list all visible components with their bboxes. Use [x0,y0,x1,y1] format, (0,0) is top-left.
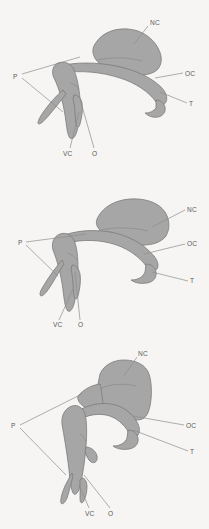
tooth-process-a [145,100,165,117]
label-oc-c: OC [186,422,196,429]
ventral-cartilage-b [40,260,64,296]
label-o-a: O [92,150,97,157]
leader-t-b [152,272,188,281]
leader-o-c [84,475,110,508]
label-o-b: O [78,321,83,328]
label-nc-a: NC [150,19,160,26]
panel-middle-drawing: NC OC T P VC O [0,172,209,344]
label-vc-b: VC [53,321,63,328]
label-nc-c: NC [138,350,148,357]
label-p-b: P [18,239,23,246]
leader-oc-c [133,416,184,425]
lateral-lobe-c [85,447,97,463]
panel-bottom-drawing: NC OC T P VC O [0,344,209,529]
tooth-process-c [113,430,138,449]
label-p-a: P [13,73,18,80]
ventral-cartilage-c [61,473,73,504]
label-oc-b: OC [187,240,197,247]
leader-p-c2 [20,428,66,475]
leader-oc-a [155,73,183,78]
label-p-c: P [11,422,16,429]
leader-o-a [80,99,94,148]
leader-t-c [133,430,188,451]
label-nc-b: NC [187,206,197,213]
label-t-c: T [190,448,194,455]
label-oc-a: OC [185,70,195,77]
tooth-process-b [131,264,156,283]
panel-top-drawing: NC OC T P VC O [0,0,209,172]
label-o-c: O [108,510,113,517]
label-vc-a: VC [63,150,73,157]
leader-oc-b [144,244,185,254]
figure-panel-bottom: NC OC T P VC O [0,344,209,529]
figure-panel-top: NC OC T P VC O [0,0,209,172]
label-t-b: T [190,277,194,284]
figure-plate: NC OC T P VC O [0,0,209,529]
figure-panel-middle: NC OC T P VC O [0,172,209,344]
label-vc-c: VC [85,510,95,517]
label-t-a: T [189,100,193,107]
